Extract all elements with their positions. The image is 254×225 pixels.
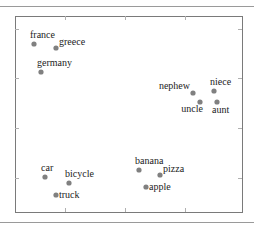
data-point-germany [38,69,43,74]
data-point-car [42,174,47,179]
point-label-pizza: pizza [163,163,185,174]
data-point-nephew [190,90,195,95]
data-point-niece [211,88,216,93]
point-label-aunt: aunt [212,104,229,115]
point-label-car: car [41,162,54,173]
point-label-truck: truck [59,189,80,200]
point-label-banana: banana [135,155,164,166]
data-point-france [31,41,36,46]
data-point-banana [136,167,141,172]
point-label-bicycle: bicycle [65,168,94,179]
data-point-greece [53,45,58,50]
axis-ticks [15,16,242,212]
point-label-greece: greece [59,36,86,47]
scatter-plot: francegreecegermanynephewnieceuncleauntc… [0,0,254,225]
data-point-truck [53,192,58,197]
point-label-niece: niece [210,76,232,87]
point-label-france: france [30,29,56,40]
data-point-apple [143,184,148,189]
data-points: francegreecegermanynephewnieceuncleauntc… [30,29,232,200]
data-point-bicycle [66,180,71,185]
point-label-uncle: uncle [181,103,203,114]
point-label-germany: germany [37,57,72,68]
data-point-pizza [157,172,162,177]
plot-frame [16,17,243,213]
point-label-nephew: nephew [159,80,191,91]
point-label-apple: apple [149,181,171,192]
